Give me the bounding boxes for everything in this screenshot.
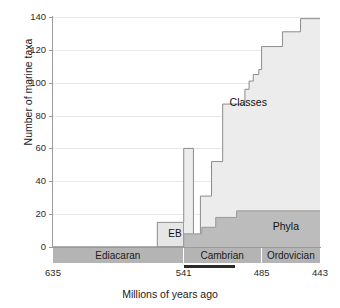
y-tick-label-40: 40 — [0, 176, 46, 185]
y-tick-label-60: 60 — [0, 143, 46, 152]
phyla-label: Phyla — [273, 220, 299, 232]
x-axis-label: Millions of years ago — [0, 288, 340, 300]
x-tick-label-443: 443 — [300, 268, 340, 278]
y-tick-label-20: 20 — [0, 209, 46, 218]
classes-label: Classes — [230, 96, 267, 108]
y-tick-label-100: 100 — [0, 78, 46, 87]
series-layer — [53, 17, 320, 247]
x-tick-label-635: 635 — [33, 268, 73, 278]
chart-figure: Number of marine taxa 020406080100120140… — [0, 0, 340, 308]
ediacaran-biota-label: EB — [168, 228, 181, 239]
geologic-period-band: EdiacaranCambrianOrdovician — [53, 248, 320, 263]
period-cambrian: Cambrian — [184, 248, 262, 263]
plot-area: EB Classes Phyla — [53, 17, 320, 247]
period-ediacaran: Ediacaran — [53, 248, 184, 263]
y-tick-label-140: 140 — [0, 12, 46, 21]
y-tick-label-80: 80 — [0, 111, 46, 120]
x-tick-label-541: 541 — [164, 268, 204, 278]
y-tick-label-120: 120 — [0, 45, 46, 54]
y-tick-label-0: 0 — [0, 242, 46, 251]
x-tick-label-485: 485 — [242, 268, 282, 278]
period-ordovician: Ordovician — [262, 248, 320, 263]
